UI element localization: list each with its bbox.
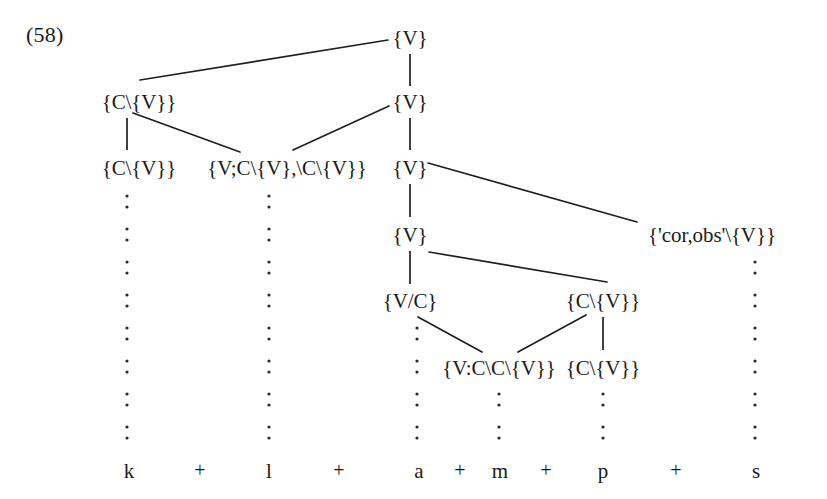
- association-dot: [601, 436, 604, 439]
- tree-branch-line: [429, 252, 607, 282]
- tree-branch-line: [428, 163, 637, 222]
- association-dot: [415, 392, 418, 395]
- tree-node-n-v-c: {V}: [392, 158, 427, 179]
- association-dot: [753, 271, 756, 274]
- association-dot: [753, 359, 756, 362]
- association-dot: [125, 392, 128, 395]
- terminal-t-p: p: [598, 461, 609, 482]
- association-dot: [125, 359, 128, 362]
- terminal-t-k: k: [124, 461, 135, 482]
- association-dot: [267, 238, 270, 241]
- association-dot: [497, 425, 500, 428]
- association-dot: [267, 359, 270, 362]
- association-dot: [415, 436, 418, 439]
- association-dot: [415, 403, 418, 406]
- association-dot: [753, 293, 756, 296]
- association-dot: [601, 392, 604, 395]
- tree-branch-line: [293, 106, 389, 150]
- association-dot: [125, 293, 128, 296]
- association-dot: [601, 425, 604, 428]
- association-dot: [125, 194, 128, 197]
- terminal-t-s: s: [752, 461, 760, 482]
- association-dot: [267, 271, 270, 274]
- association-dot: [267, 436, 270, 439]
- terminal-t-m: m: [492, 461, 508, 482]
- association-dot: [497, 403, 500, 406]
- tree-node-n-v-b: {V}: [392, 92, 427, 113]
- association-dot: [753, 260, 756, 263]
- association-dot: [267, 392, 270, 395]
- association-dot: [753, 425, 756, 428]
- association-dot: [267, 293, 270, 296]
- separator-sep-4: +: [540, 460, 551, 480]
- association-dot: [497, 436, 500, 439]
- association-dot: [601, 403, 604, 406]
- association-dot: [415, 359, 418, 362]
- tree-node-n-c-v-a: {C\{V}}: [102, 92, 177, 113]
- tree-branch-line: [518, 315, 586, 352]
- separator-sep-3: +: [454, 460, 465, 480]
- association-dot: [753, 392, 756, 395]
- association-dot: [267, 326, 270, 329]
- separator-sep-2: +: [333, 460, 344, 480]
- association-dot: [753, 436, 756, 439]
- association-dot: [125, 370, 128, 373]
- association-dot: [125, 304, 128, 307]
- association-dot: [267, 370, 270, 373]
- tree-node-n-v-cluster: {V;C\{V},\C\{V}}: [207, 158, 366, 179]
- association-dot: [267, 304, 270, 307]
- association-dot: [125, 271, 128, 274]
- association-dot: [267, 337, 270, 340]
- association-dot: [125, 425, 128, 428]
- association-dot: [497, 392, 500, 395]
- association-dot: [125, 227, 128, 230]
- association-dot: [125, 436, 128, 439]
- tree-node-n-v-ccv: {V:C\C\{V}}: [442, 358, 556, 379]
- association-dot: [125, 326, 128, 329]
- tree-node-n-root-v: {V}: [392, 28, 427, 49]
- tree-node-n-c-v-d: {C\{V}}: [566, 358, 641, 379]
- association-dot: [125, 238, 128, 241]
- association-dot: [415, 425, 418, 428]
- figure-root: (58) {V}{C\{V}}{V}{C\{V}}{V;C\{V},\C\{V}…: [0, 0, 827, 499]
- association-dot: [415, 326, 418, 329]
- terminal-t-l: l: [266, 461, 272, 482]
- association-dot: [753, 403, 756, 406]
- association-dot: [267, 205, 270, 208]
- association-dot: [753, 304, 756, 307]
- tree-edges-layer: [0, 0, 827, 499]
- association-dot: [267, 403, 270, 406]
- association-dot: [415, 370, 418, 373]
- association-dot: [125, 260, 128, 263]
- tree-node-n-cor-obs: {'cor,obs'\{V}}: [648, 225, 776, 246]
- association-dot: [267, 260, 270, 263]
- association-dot: [267, 227, 270, 230]
- tree-branch-line: [418, 317, 482, 352]
- association-dot: [125, 403, 128, 406]
- tree-node-n-v-slash-c: {V/C}: [383, 291, 438, 312]
- association-dot: [753, 370, 756, 373]
- association-dot: [125, 337, 128, 340]
- tree-branch-line: [140, 40, 388, 80]
- association-dot: [753, 337, 756, 340]
- tree-branch-line: [133, 113, 240, 152]
- terminal-t-a: a: [414, 461, 423, 482]
- tree-node-n-c-v-c: {C\{V}}: [566, 291, 641, 312]
- separator-sep-5: +: [670, 460, 681, 480]
- association-dot: [267, 194, 270, 197]
- association-dot: [415, 337, 418, 340]
- association-dot: [125, 205, 128, 208]
- tree-node-n-c-v-b: {C\{V}}: [102, 158, 177, 179]
- association-dot: [267, 425, 270, 428]
- tree-node-n-v-d: {V}: [392, 225, 427, 246]
- separator-sep-1: +: [194, 460, 205, 480]
- association-dot: [753, 326, 756, 329]
